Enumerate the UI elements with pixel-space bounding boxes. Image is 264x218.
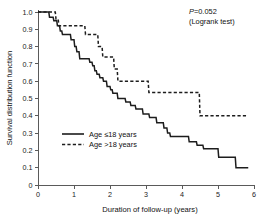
y-tick-label: 0.9 bbox=[23, 25, 33, 34]
x-tick-label: 6 bbox=[252, 190, 256, 199]
y-tick-label: 0.5 bbox=[23, 94, 33, 103]
x-tick-label: 4 bbox=[180, 190, 184, 199]
y-tick-label: 0.8 bbox=[23, 42, 33, 51]
x-tick-label: 0 bbox=[36, 190, 40, 199]
p-value-annotation: P=0.052 bbox=[189, 7, 217, 16]
x-tick-label: 5 bbox=[216, 190, 220, 199]
x-axis-title: Duration of follow-up (years) bbox=[102, 205, 198, 214]
y-axis-title: Survival distribution function bbox=[5, 51, 14, 146]
y-tick-label: 0.3 bbox=[23, 129, 33, 138]
y-tick-label: 0.1 bbox=[23, 163, 33, 172]
legend-label-1: Age ≤18 years bbox=[89, 130, 137, 139]
y-tick-label: 0.6 bbox=[23, 77, 33, 86]
x-tick-label: 1 bbox=[72, 190, 76, 199]
logrank-test-annotation: (Logrank test) bbox=[189, 17, 235, 26]
y-axis-ticks: 00.10.20.30.40.50.60.70.80.91.0 bbox=[23, 8, 39, 190]
survival-curve-2 bbox=[38, 12, 248, 116]
p-value-number: =0.052 bbox=[194, 7, 217, 16]
y-tick-label: 0.7 bbox=[23, 60, 33, 69]
annotation-group: P=0.052 (Logrank test) bbox=[189, 7, 235, 26]
y-tick-label: 1.0 bbox=[23, 8, 33, 17]
y-axis-group: 00.10.20.30.40.50.60.70.80.91.0 Survival… bbox=[5, 8, 38, 190]
survival-chart-svg: 00.10.20.30.40.50.60.70.80.91.0 Survival… bbox=[0, 0, 264, 218]
x-tick-label: 2 bbox=[108, 190, 112, 199]
chart-legend: Age ≤18 yearsAge >18 years bbox=[62, 130, 137, 150]
kaplan-meier-figure: 00.10.20.30.40.50.60.70.80.91.0 Survival… bbox=[0, 0, 264, 218]
x-axis-ticks: 0123456 bbox=[36, 185, 256, 199]
x-axis-group: 0123456 Duration of follow-up (years) bbox=[36, 185, 256, 214]
y-tick-label: 0 bbox=[29, 181, 33, 190]
x-tick-label: 3 bbox=[144, 190, 148, 199]
legend-label-2: Age >18 years bbox=[89, 140, 137, 149]
y-tick-label: 0.4 bbox=[23, 111, 33, 120]
y-tick-label: 0.2 bbox=[23, 146, 33, 155]
